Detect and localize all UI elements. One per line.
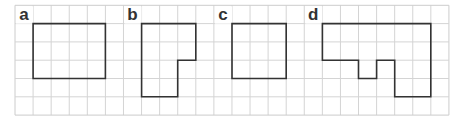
figure-label: b [127,5,137,24]
figure-outline [232,24,286,79]
figure-d: d [305,5,431,97]
figure-label: d [308,5,318,24]
figure-label: c [218,5,227,24]
grid-figures-diagram: abcd [0,0,457,122]
figure-label: a [19,5,29,24]
figures: abcd [16,5,431,97]
